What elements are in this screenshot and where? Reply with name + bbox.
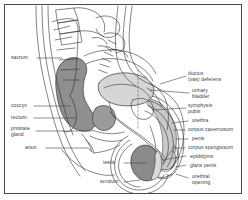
leader-ductus xyxy=(160,76,186,84)
leader-urethral-op xyxy=(176,174,188,178)
leader-anus xyxy=(46,148,92,152)
leader-scrotum xyxy=(124,180,140,182)
vertebral-process-b xyxy=(80,31,104,37)
pelvic-floor xyxy=(92,130,124,134)
label-penis-text: penis xyxy=(192,135,204,141)
label-anus-text: anus xyxy=(25,144,36,150)
label-scrotum: scrotum xyxy=(100,179,118,185)
label-scrotum-text: scrotum xyxy=(100,178,118,184)
vertebra-3 xyxy=(60,31,82,45)
label-corpus-spongiosum-text: corpus spongiosum xyxy=(188,144,233,150)
intestine-coil-5 xyxy=(98,46,111,52)
label-rectum: rectum xyxy=(11,115,27,121)
label-corpus-spongiosum: corpus spongiosum xyxy=(188,145,233,151)
label-sacrum: sacrum xyxy=(11,55,28,61)
label-rectum-text: rectum xyxy=(11,114,27,120)
prostate-shape xyxy=(92,106,115,131)
label-urinary-bladder: urinary bladder xyxy=(192,88,209,99)
label-glans-penis-text: glans penis xyxy=(190,162,216,168)
anal-canal xyxy=(82,134,92,152)
label-coccyx: coccyx xyxy=(11,103,27,109)
pelvic-floor-2 xyxy=(90,136,122,141)
vertebral-process-a xyxy=(74,8,105,32)
label-urethra: urethra xyxy=(192,118,209,124)
label-symphysis-pubis-line2: pubis xyxy=(188,109,212,115)
label-coccyx-text: coccyx xyxy=(11,102,27,108)
sacral-hatching xyxy=(99,40,116,73)
figure-root: sacrum coccyx rectum prostate gland anus… xyxy=(0,0,248,200)
intestine-coil-3 xyxy=(92,37,107,44)
label-urethra-text: urethra xyxy=(192,117,209,123)
label-urethral-opening: urethral opening xyxy=(192,174,210,185)
body-front-contour-inner xyxy=(129,6,147,78)
label-ductus-line2: (vas) deferens xyxy=(188,77,221,83)
label-ductus-vas-deferens: ductus (vas) deferens xyxy=(188,71,221,82)
label-testis: testis xyxy=(103,160,115,166)
leader-glans xyxy=(176,165,186,167)
label-prostate-gland: prostate gland xyxy=(11,126,30,137)
label-prostate-gland-line2: gland xyxy=(11,132,30,138)
leader-bladder xyxy=(150,90,189,93)
label-glans-penis: glans penis xyxy=(190,163,216,169)
label-urinary-bladder-line2: bladder xyxy=(192,94,209,100)
label-epididymis-text: epididyms xyxy=(190,153,213,159)
label-epididymis: epididyms xyxy=(190,154,213,160)
vertebra-2 xyxy=(58,20,80,34)
label-penis: penis xyxy=(192,136,204,142)
anatomy-diagram xyxy=(0,0,248,200)
label-testis-text: testis xyxy=(103,159,115,165)
label-corpus-cavernosum-text: corpus cavernosum xyxy=(188,126,233,132)
label-sacrum-text: sacrum xyxy=(11,54,28,60)
label-corpus-cavernosum: corpus cavernosum xyxy=(188,127,233,133)
label-anus: anus xyxy=(25,145,36,151)
label-urethral-opening-line2: opening xyxy=(192,180,210,186)
rectum-shape xyxy=(56,58,95,132)
label-symphysis-pubis: symphysis pubis xyxy=(188,103,212,114)
